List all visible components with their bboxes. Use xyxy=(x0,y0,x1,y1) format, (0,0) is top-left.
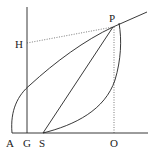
dotted-line-hp xyxy=(27,27,113,43)
lower-curve xyxy=(43,23,121,133)
label-o: O xyxy=(110,137,118,149)
geometry-diagram: A G S O P H xyxy=(0,0,156,151)
label-p: P xyxy=(109,12,115,24)
label-g: G xyxy=(23,137,31,149)
label-s: S xyxy=(39,137,45,149)
label-a: A xyxy=(6,137,14,149)
label-h: H xyxy=(15,38,23,50)
upper-curve xyxy=(12,12,147,133)
line-sp xyxy=(43,27,113,133)
